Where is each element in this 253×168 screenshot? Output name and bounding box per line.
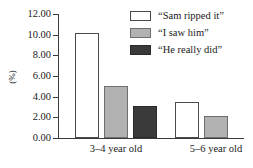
x-axis-line [58,138,244,139]
y-axis-title: (%) [7,57,17,97]
legend-label-0: “Sam ripped it” [158,11,224,22]
legend-item-0: “Sam ripped it” [130,9,224,23]
y-tick-mark [53,55,58,56]
bar-g1-s0 [175,102,199,138]
y-tick-label-8: 8.00 [33,50,51,61]
x-axis-label-group-0: 3–4 year old [90,143,143,154]
y-tick-label-2: 2.00 [33,112,51,123]
legend-label-1: “I saw him” [158,28,209,39]
legend-swatch-icon-0 [130,11,151,21]
legend-label-2: “He really did” [158,45,222,56]
legend: “Sam ripped it” “I saw him” “He really d… [130,9,224,60]
y-tick-label-4: 4.00 [33,91,51,102]
y-tick-label-12: 12.00 [27,9,51,20]
y-tick-label-0: 0.00 [33,133,51,144]
legend-swatch-icon-1 [130,28,151,38]
y-tick-mark [53,97,58,98]
legend-item-1: “I saw him” [130,26,224,40]
bar-g0-s0 [75,33,99,138]
legend-swatch-icon-2 [130,45,151,55]
legend-item-2: “He really did” [130,43,224,57]
y-tick-label-6: 6.00 [33,71,51,82]
bar-g1-s1 [204,116,228,138]
y-tick-mark [53,14,58,15]
y-tick-mark [53,35,58,36]
y-tick-label-10: 10.00 [27,29,51,40]
x-axis-label-group-1: 5–6 year old [190,143,243,154]
y-tick-mark [53,138,58,139]
y-tick-mark [53,117,58,118]
bar-g0-s2 [133,106,157,138]
y-axis-line [58,14,59,139]
y-tick-mark [53,76,58,77]
bar-chart: (%) 0.00 2.00 4.00 6.00 8.00 10.00 [0,0,253,168]
bar-g0-s1 [104,86,128,138]
